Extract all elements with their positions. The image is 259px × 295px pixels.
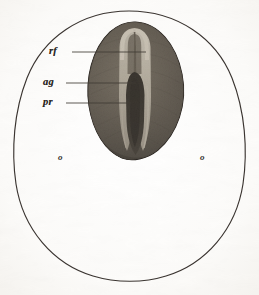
figure-illustration [0,0,259,295]
label-rf: rf [49,46,57,57]
marker-o-left: o [58,153,63,162]
figure-plate: rf ag pr o o [0,0,259,295]
label-ag: ag [43,77,54,88]
marker-o-right: o [200,153,205,162]
label-pr: pr [43,97,53,108]
